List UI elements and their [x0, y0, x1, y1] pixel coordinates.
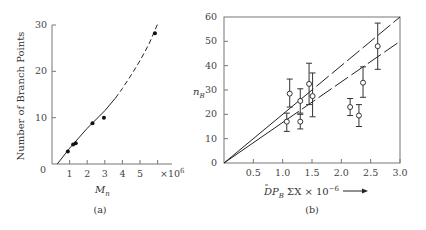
a-data-point — [66, 149, 70, 153]
a-x-tick: 2 — [84, 168, 90, 179]
b-y-tick: 10 — [205, 133, 217, 144]
b-y-tick: 0 — [211, 157, 217, 168]
b-data-point — [287, 91, 292, 96]
b-x-tick: 1.5 — [304, 167, 319, 178]
b-y-tick: 30 — [205, 84, 217, 95]
b-data-point — [348, 105, 353, 110]
a-x-tick: 1 — [67, 168, 73, 179]
a-x-tick: 3 — [102, 168, 108, 179]
b-x-tick: 1.0 — [275, 167, 290, 178]
b-data-point — [307, 81, 312, 86]
b-fit-line-dashed — [286, 41, 400, 120]
b-x-label: DPB ΣX × 10−6 — [263, 185, 368, 200]
b-data-point — [310, 94, 315, 99]
a-data-point — [102, 116, 106, 120]
a-data-point — [153, 31, 157, 35]
b-y-tick: 20 — [205, 108, 217, 119]
svg-text:DPB ΣX × 10−6: DPB ΣX × 10−6 — [263, 185, 340, 200]
figure: 12345102030 0 ×106 Mn Number of Branch P… — [0, 0, 426, 230]
a-origin-label: 0 — [40, 164, 46, 175]
b-fit-line-solid — [224, 112, 286, 163]
b-data-point — [356, 113, 361, 118]
b-data-point — [284, 119, 289, 124]
b-x-tick: 3.0 — [392, 167, 407, 178]
a-x-tick: 4 — [119, 168, 125, 179]
b-fit-line-dashed — [286, 17, 400, 112]
chart-a: 12345102030 0 ×106 Mn Number of Branch P… — [15, 19, 185, 215]
a-data-point — [74, 141, 78, 145]
b-y-tick: 50 — [205, 35, 217, 46]
a-y-tick: 20 — [35, 65, 47, 76]
a-y-tick: 30 — [35, 19, 47, 30]
b-y-tick: 60 — [205, 11, 217, 22]
b-y-tick: 40 — [205, 60, 217, 71]
a-fit-dashed — [115, 24, 157, 98]
b-caption: (b) — [305, 204, 319, 215]
b-data-point — [298, 98, 303, 103]
b-x-tick: 2.0 — [334, 167, 349, 178]
b-x-tick: 0.5 — [246, 167, 261, 178]
b-data-point — [361, 80, 366, 85]
b-data-point — [375, 44, 380, 49]
chart-b: 0.51.01.52.02.53.00102030405060 nB DPB Σ… — [193, 11, 408, 215]
b-x-tick: 2.5 — [363, 167, 378, 178]
a-x-label: Mn — [94, 184, 110, 198]
a-caption: (a) — [93, 204, 106, 215]
a-x-tick: 5 — [137, 168, 143, 179]
a-y-label: Number of Branch Points — [15, 32, 26, 161]
a-fit-solid — [57, 98, 115, 164]
a-data-point — [90, 121, 94, 125]
b-data-point — [298, 119, 303, 124]
b-fit-line-solid — [224, 120, 286, 163]
a-y-tick: 10 — [35, 112, 47, 123]
a-multiplier: ×106 — [160, 167, 185, 179]
b-y-label: nB — [193, 86, 205, 100]
